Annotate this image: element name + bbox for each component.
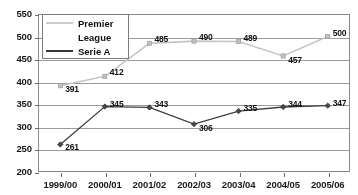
- y-tick-label: 250: [2, 143, 32, 154]
- y-tick-mark: [35, 173, 39, 174]
- data-value-label: 345: [110, 99, 124, 109]
- x-tick-label: 2000/01: [82, 179, 128, 190]
- data-value-label: 457: [288, 55, 302, 65]
- data-value-label: 344: [288, 99, 302, 109]
- data-value-label: 306: [199, 123, 213, 133]
- data-point-marker: [191, 121, 196, 126]
- data-point-marker: [325, 103, 330, 108]
- x-tick-mark: [106, 173, 107, 177]
- data-value-label: 489: [244, 33, 258, 43]
- data-point-marker: [236, 39, 240, 43]
- data-value-label: 485: [154, 34, 168, 44]
- x-tick-mark: [61, 173, 62, 177]
- x-tick-mark: [240, 173, 241, 177]
- line-chart: 200250300350400450500550 1999/002000/012…: [0, 0, 358, 195]
- x-tick-label: 1999/00: [37, 179, 83, 190]
- x-tick-mark: [150, 173, 151, 177]
- y-tick-label: 300: [2, 121, 32, 132]
- x-tick-mark: [195, 173, 196, 177]
- data-value-label: 500: [333, 28, 347, 38]
- data-point-marker: [103, 74, 107, 78]
- data-value-label: 335: [244, 103, 258, 113]
- x-tick-label: 2002/03: [171, 179, 217, 190]
- y-tick-label: 550: [2, 8, 32, 19]
- legend-swatch-serie-a: [46, 50, 73, 52]
- chart-legend: Premier League Serie A: [42, 14, 129, 59]
- x-tick-label: 2001/02: [126, 179, 172, 190]
- data-value-label: 343: [154, 99, 168, 109]
- data-value-label: 490: [199, 32, 213, 42]
- data-point-marker: [58, 84, 62, 88]
- legend-label-premier-league-line1: Premier: [78, 18, 113, 29]
- data-value-label: 261: [65, 142, 79, 152]
- y-tick-label: 500: [2, 31, 32, 42]
- data-point-marker: [147, 41, 151, 45]
- x-tick-label: 2004/05: [260, 179, 306, 190]
- data-point-marker: [147, 105, 152, 110]
- x-tick-mark: [284, 173, 285, 177]
- x-tick-label: 2003/04: [216, 179, 262, 190]
- data-point-marker: [280, 104, 285, 109]
- data-point-marker: [192, 39, 196, 43]
- x-tick-mark: [329, 173, 330, 177]
- chart-canvas: 200250300350400450500550 1999/002000/012…: [0, 0, 358, 195]
- y-tick-label: 350: [2, 98, 32, 109]
- y-tick-label: 450: [2, 53, 32, 64]
- data-value-label: 391: [65, 84, 79, 94]
- data-point-marker: [236, 108, 241, 113]
- legend-item-serie-a: Serie A: [43, 44, 128, 58]
- y-tick-label: 200: [2, 166, 32, 177]
- legend-item-premier-league: Premier: [43, 16, 128, 30]
- legend-label-premier-league-line2: League: [78, 32, 111, 43]
- y-tick-label: 400: [2, 76, 32, 87]
- data-value-label: 347: [333, 98, 347, 108]
- legend-item-premier-league-continued: League: [43, 30, 128, 44]
- data-value-label: 412: [110, 67, 124, 77]
- x-tick-label: 2005/06: [305, 179, 351, 190]
- data-point-marker: [281, 54, 285, 58]
- legend-label-serie-a: Serie A: [78, 46, 110, 57]
- legend-swatch-premier-league: [46, 22, 73, 24]
- data-point-marker: [326, 34, 330, 38]
